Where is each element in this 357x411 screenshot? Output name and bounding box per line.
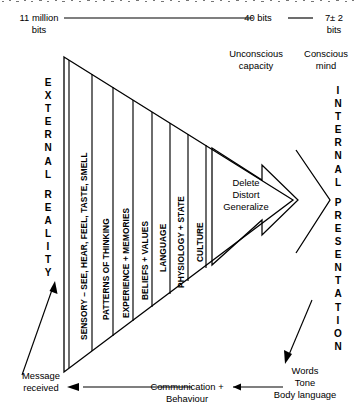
- internal-presentation-letter-17: T: [331, 301, 345, 314]
- process-labels: Delete Distort Generalize: [213, 177, 279, 212]
- channel-line1: Communication +: [135, 381, 239, 393]
- output-body-language: Body language: [259, 389, 351, 401]
- external-reality-letter-15: Y: [41, 266, 55, 279]
- filter-label-beliefs-values: BELIEFS + VALUES: [140, 221, 150, 300]
- filter-label-patterns-of-thinking: PATTERNS OF THINKING: [101, 218, 111, 320]
- internal-presentation-letter-2: T: [331, 110, 345, 123]
- external-reality-letter-3: E: [41, 115, 55, 128]
- external-reality-letter-10: E: [41, 201, 55, 214]
- internal-presentation-letter-9: P: [331, 196, 345, 209]
- process-distort: Distort: [213, 189, 279, 201]
- external-reality-letter-13: I: [41, 240, 55, 253]
- external-reality-letter-0: E: [41, 76, 55, 89]
- internal-presentation-letter-19: O: [331, 327, 345, 340]
- diagram-canvas: 11 million bits 40 bits 7± 2 bits Uncons…: [0, 0, 357, 411]
- scale-label-7plusminus2: 7± 2 bits: [313, 12, 355, 35]
- internal-presentation-letter-0: I: [331, 84, 345, 97]
- external-reality-letter-6: A: [41, 155, 55, 168]
- output-arrowhead: [284, 350, 292, 364]
- external-reality-letter-11: A: [41, 214, 55, 227]
- internal-presentation-letter-1: N: [331, 97, 345, 110]
- internal-presentation-letter-14: N: [331, 261, 345, 274]
- scale-40bits-text: 40 bits: [228, 12, 288, 24]
- filter-label-experience-memories: EXPERIENCE + MEMORIES: [121, 208, 131, 318]
- external-reality-letter-4: R: [41, 128, 55, 141]
- process-generalize: Generalize: [213, 201, 279, 213]
- scale-7pm2-line1: 7± 2: [313, 12, 355, 24]
- unconscious-line1: Unconscious: [216, 48, 296, 60]
- internal-presentation-letter-13: E: [331, 248, 345, 261]
- output-arrow-shaft: [288, 300, 312, 357]
- scale-label-40-bits: 40 bits: [228, 12, 288, 24]
- scale-11m-line1: 11 million: [6, 12, 72, 24]
- message-arrow-shaft: [22, 287, 53, 375]
- filter-label-culture: CULTURE: [195, 222, 205, 262]
- internal-presentation-letter-7: L: [331, 176, 345, 189]
- external-reality-letter-9: R: [41, 188, 55, 201]
- external-reality-letter-1: X: [41, 89, 55, 102]
- output-words: Words: [259, 365, 351, 377]
- communication-behaviour-label: Communication + Behaviour: [135, 381, 239, 405]
- message-line1: Message: [2, 370, 80, 382]
- process-delete: Delete: [213, 177, 279, 189]
- internal-presentation-letter-15: T: [331, 274, 345, 287]
- unconscious-capacity-label: Unconscious capacity: [216, 48, 296, 71]
- conscious-mind-label: Conscious mind: [296, 48, 356, 71]
- scale-label-11-million: 11 million bits: [6, 12, 72, 35]
- output-tone: Tone: [259, 377, 351, 389]
- external-reality-letter-5: N: [41, 141, 55, 154]
- output-modalities-label: Words Tone Body language: [259, 365, 351, 400]
- internal-presentation-letter-16: A: [331, 287, 345, 300]
- output-chevron: [296, 150, 330, 253]
- conscious-line2: mind: [296, 60, 356, 72]
- internal-presentation-letter-6: A: [331, 163, 345, 176]
- scale-7pm2-line2: bits: [313, 24, 355, 36]
- internal-presentation-letter-5: N: [331, 149, 345, 162]
- external-reality-letter-2: T: [41, 102, 55, 115]
- message-received-label: Message received: [2, 370, 80, 394]
- internal-presentation-gap: [331, 189, 345, 196]
- internal-presentation-letter-20: N: [331, 340, 345, 353]
- filter-label-physiology-state: PHYSIOLOGY + STATE: [176, 196, 186, 288]
- message-line2: received: [2, 382, 80, 394]
- external-reality-letter-14: T: [41, 253, 55, 266]
- filter-label-language: LANGUAGE: [158, 224, 168, 272]
- external-reality-gap: [41, 181, 55, 188]
- channel-line2: Behaviour: [135, 393, 239, 405]
- internal-presentation-axis: INTERNALPRESENTATION: [331, 84, 345, 353]
- internal-presentation-letter-4: R: [331, 136, 345, 149]
- conscious-line1: Conscious: [296, 48, 356, 60]
- internal-presentation-letter-11: E: [331, 222, 345, 235]
- internal-presentation-letter-18: I: [331, 314, 345, 327]
- scale-11m-line2: bits: [6, 24, 72, 36]
- external-reality-letter-12: L: [41, 227, 55, 240]
- external-reality-letter-7: L: [41, 168, 55, 181]
- internal-presentation-letter-12: S: [331, 235, 345, 248]
- internal-presentation-letter-3: E: [331, 123, 345, 136]
- filter-label-sensory: SENSORY – SEE, HEAR, FEEL, TASTE, SMELL: [79, 152, 89, 340]
- internal-presentation-letter-10: R: [331, 209, 345, 222]
- external-reality-axis: EXTERNALREALITY: [41, 76, 55, 279]
- unconscious-line2: capacity: [216, 60, 296, 72]
